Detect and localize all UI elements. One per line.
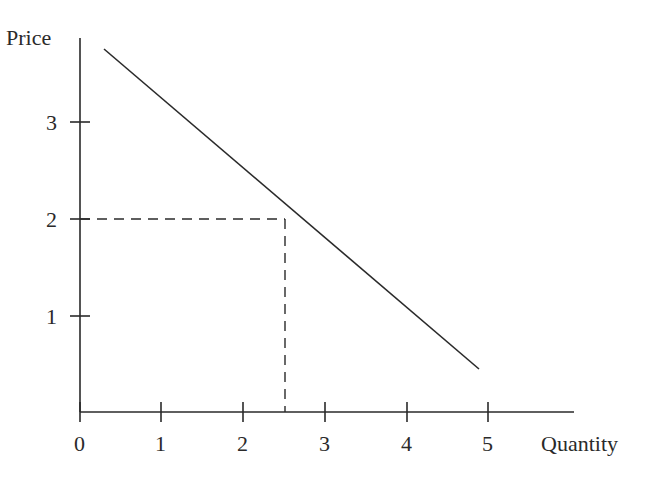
y-tick-label-1: 1: [46, 304, 57, 329]
x-axis-label: Quantity: [541, 431, 618, 456]
x-tick-label-0: 0: [74, 431, 85, 456]
demand-line: [104, 49, 479, 369]
x-tick-label-2: 2: [237, 431, 248, 456]
y-axis-label: Price: [6, 25, 51, 50]
x-tick-label-4: 4: [401, 431, 412, 456]
x-tick-label-1: 1: [155, 431, 166, 456]
x-tick-label-5: 5: [482, 431, 493, 456]
x-tick-label-3: 3: [319, 431, 330, 456]
y-tick-label-2: 2: [46, 207, 57, 232]
demand-chart: Price Quantity 3 2 1 0 1 2 3 4 5: [0, 0, 656, 481]
y-tick-label-3: 3: [46, 110, 57, 135]
